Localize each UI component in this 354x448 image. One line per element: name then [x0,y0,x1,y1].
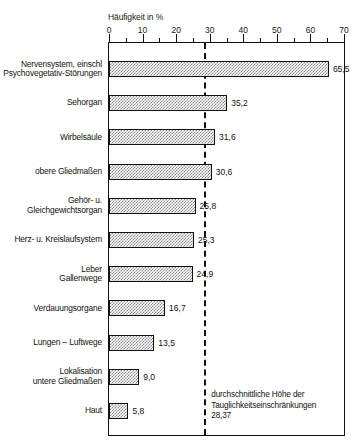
category-label: LeberGallenwege [0,265,102,284]
plot-frame-bottom [108,435,345,436]
category-label-line: Wirbelsäule [0,133,102,143]
bar-chart: Häufigkeit in % 010203040506070 Nervensy… [0,0,354,448]
category-label: Nervensystem, einschlPsychovegetativ-Stö… [0,60,102,79]
x-tick-major-30 [210,34,211,43]
bar[interactable] [109,369,139,385]
category-label: Lokalisationuntere Gliedmaßen [0,367,102,386]
category-label-line: Herz- u. Kreislaufsystem [0,235,102,245]
bar-value-label: 24,9 [197,269,214,279]
x-tick-minor-25 [193,38,194,43]
bar-value-label: 25,3 [198,235,215,245]
mean-annotation-line: durchschnittliche Höhe der [211,390,343,401]
category-label: Herz- u. Kreislaufsystem [0,235,102,245]
bar-row: Wirbelsäule31,6 [0,126,354,148]
x-tick-minor-15 [159,38,160,43]
category-label: Sehorgan [0,98,102,108]
category-label-line: Lungen – Luftwege [0,338,102,348]
bar-value-label: 30,6 [216,167,233,177]
category-label-line: Sehorgan [0,98,102,108]
x-tick-label-30: 30 [205,25,214,35]
bar-row: Verdauungsorgane16,7 [0,297,354,319]
category-label: Lungen – Luftwege [0,338,102,348]
bar[interactable] [109,266,193,282]
bar-row: Herz- u. Kreislaufsystem25,3 [0,229,354,251]
category-label: Gehör- u.Gleichgewichtsorgan [0,196,102,215]
x-axis-title: Häufigkeit in % [108,12,163,22]
bar[interactable] [109,198,196,214]
category-label-line: obere Gliedmaßen [0,167,102,177]
x-tick-label-10: 10 [138,25,147,35]
bar[interactable] [109,95,227,111]
bar-value-label: 65,5 [333,64,350,74]
x-tick-major-50 [277,34,278,43]
bar-row: obere Gliedmaßen30,6 [0,161,354,183]
bar[interactable] [109,129,215,145]
category-label-line: Gleichgewichtsorgan [0,206,102,216]
bar-row: Lungen – Luftwege13,5 [0,332,354,354]
x-tick-major-40 [243,34,244,43]
bar-value-label: 9,0 [143,372,155,382]
bar[interactable] [109,403,128,419]
x-tick-major-20 [176,34,177,43]
mean-annotation: durchschnittliche Höhe derTauglichkeitse… [211,390,343,422]
category-label: obere Gliedmaßen [0,167,102,177]
bar-row: Lokalisationuntere Gliedmaßen9,0 [0,366,354,388]
category-label-line: Gallenwege [0,274,102,284]
bar[interactable] [109,300,165,316]
x-tick-label-50: 50 [272,25,281,35]
mean-annotation-line: 28,37 [211,411,343,422]
category-label-line: untere Gliedmaßen [0,377,102,387]
bar-value-label: 16,7 [169,303,186,313]
bar[interactable] [109,232,194,248]
mean-annotation-line: Tauglichkeitseinschränkungen [211,401,343,412]
x-tick-label-20: 20 [171,25,180,35]
bar-row: Sehorgan35,2 [0,92,354,114]
bar-row: LeberGallenwege24,9 [0,263,354,285]
x-tick-major-60 [310,34,311,43]
bar-row: Nervensystem, einschlPsychovegetativ-Stö… [0,58,354,80]
bar-value-label: 25,8 [200,201,217,211]
bar-value-label: 13,5 [158,338,175,348]
category-label: Wirbelsäule [0,133,102,143]
bar-value-label: 35,2 [231,98,248,108]
x-tick-label-0: 0 [107,25,112,35]
x-tick-minor-55 [294,38,295,43]
bar[interactable] [109,335,154,351]
category-label: Verdauungsorgane [0,304,102,314]
bar-value-label: 31,6 [219,132,236,142]
category-label: Haut [0,406,102,416]
x-tick-minor-35 [227,38,228,43]
bar-value-label: 5,8 [132,406,144,416]
category-label-line: Verdauungsorgane [0,304,102,314]
x-tick-minor-5 [126,38,127,43]
category-label-line: Haut [0,406,102,416]
x-tick-minor-65 [327,38,328,43]
bar[interactable] [109,61,329,77]
bar-row: Gehör- u.Gleichgewichtsorgan25,8 [0,195,354,217]
category-label-line: Psychovegetativ-Störungen [0,69,102,79]
x-tick-minor-45 [260,38,261,43]
bar[interactable] [109,164,212,180]
x-tick-label-40: 40 [239,25,248,35]
x-tick-major-10 [143,34,144,43]
x-tick-label-60: 60 [306,25,315,35]
x-tick-label-70: 70 [339,25,348,35]
